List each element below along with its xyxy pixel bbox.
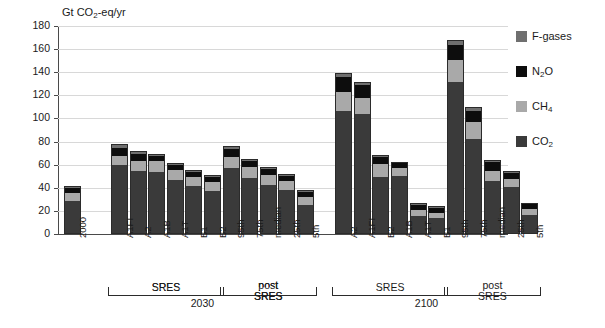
x-axis-label-10: 25th — [291, 220, 302, 239]
bar-19 — [465, 107, 482, 234]
y-axis-title-main: Gt CO — [62, 6, 93, 18]
y-tick-120 — [54, 95, 58, 96]
y-tick-40 — [54, 188, 58, 189]
bar-segment-ch4 — [112, 156, 127, 165]
bar-segment-n2o — [355, 85, 370, 98]
x-axis-label-13: A1FI — [366, 218, 377, 238]
legend-swatch-icon — [516, 101, 527, 112]
bar-13 — [354, 82, 371, 234]
x-axis-label-1: A1FI — [124, 218, 135, 238]
bar-segment-ch4 — [261, 175, 276, 185]
legend-swatch-icon — [516, 31, 527, 42]
bracket-label-post-sres-2100: postSRES — [444, 280, 541, 302]
bar-segment-n2o — [373, 157, 388, 164]
bar-segment-ch4 — [485, 171, 500, 181]
bar-segment-ch4 — [392, 168, 407, 176]
y-tick-60 — [54, 165, 58, 166]
x-axis-label-19: 75th — [478, 220, 489, 239]
x-axis-label-8: 75th — [254, 220, 265, 239]
x-axis-label-4: A1T — [179, 221, 190, 238]
bar-segment-ch4 — [149, 161, 164, 172]
bar-segment-ch4 — [448, 60, 463, 82]
y-axis-label-140: 140 — [2, 65, 50, 77]
bracket-label-sres-2030b: SRES — [108, 281, 224, 293]
bar-segment-co2 — [448, 82, 463, 233]
bar-segment-n2o — [224, 149, 239, 158]
legend-label: F-gases — [532, 30, 572, 42]
x-axis-label-16: A1T — [422, 221, 433, 238]
legend-item-1[interactable]: N2O — [516, 65, 604, 77]
x-axis-label-15: A1B — [403, 220, 414, 238]
bar-segment-n2o — [112, 148, 127, 156]
x-axis-label-9: median — [272, 207, 283, 238]
legend-swatch-icon — [516, 66, 527, 77]
bar-18 — [447, 40, 464, 234]
x-axis-label-6: B2 — [217, 226, 228, 238]
bar-segment-ch4 — [336, 92, 351, 110]
legend-item-2[interactable]: CH4 — [516, 100, 604, 112]
y-axis-title-sub: 2 — [93, 11, 97, 20]
legend-swatch-icon — [516, 136, 527, 147]
bar-segment-ch4 — [131, 161, 146, 171]
y-tick-0 — [54, 234, 58, 235]
bar-segment-n2o — [336, 77, 351, 92]
bar-6 — [204, 175, 221, 234]
gridline-80 — [58, 142, 508, 143]
y-axis-label-60: 60 — [2, 158, 50, 170]
y-axis-label-20: 20 — [2, 204, 50, 216]
gridline-100 — [58, 118, 508, 119]
period-label-2030: 2030 — [179, 297, 225, 309]
x-axis-label-2: A2 — [142, 226, 153, 238]
y-tick-20 — [54, 211, 58, 212]
bar-segment-ch4 — [279, 181, 294, 190]
bar-segment-co2 — [336, 111, 351, 233]
bar-segment-ch4 — [65, 193, 80, 201]
y-axis-label-0: 0 — [2, 227, 50, 239]
legend-item-3[interactable]: CO2 — [516, 135, 604, 147]
bar-segment-ch4 — [242, 167, 257, 177]
y-axis-label-40: 40 — [2, 181, 50, 193]
bar-segment-n2o — [485, 162, 500, 171]
gridline-160 — [58, 49, 508, 50]
y-axis-label-120: 120 — [2, 88, 50, 100]
period-label-2100: 2100 — [404, 297, 450, 309]
x-axis-label-0: 2000 — [77, 217, 88, 238]
legend: F-gasesN2OCH4CO2 — [516, 30, 604, 170]
bar-segment-ch4 — [186, 177, 201, 186]
y-tick-180 — [54, 26, 58, 27]
x-axis-label-3: A1B — [161, 220, 172, 238]
y-tick-80 — [54, 142, 58, 143]
plot-area — [58, 26, 508, 234]
y-tick-140 — [54, 72, 58, 73]
bracket-label-post-sres-2030b: postSRES — [220, 280, 317, 302]
x-axis-label-22: 5th — [534, 225, 545, 238]
x-axis-label-7: 95th — [235, 220, 246, 239]
bracket-label-sres-2100: SRES — [332, 281, 448, 293]
bar-segment-ch4 — [466, 122, 481, 139]
y-axis-label-100: 100 — [2, 111, 50, 123]
x-axis-label-21: 25th — [515, 220, 526, 239]
legend-label: CH4 — [532, 100, 552, 112]
y-axis-title: Gt CO2-eq/yr — [62, 6, 126, 18]
gridline-120 — [58, 95, 508, 96]
bar-segment-ch4 — [205, 182, 220, 191]
x-axis-label-14: B2 — [385, 226, 396, 238]
y-axis-title-rest: -eq/yr — [98, 6, 126, 18]
bar-segment-n2o — [131, 154, 146, 161]
bar-segment-co2 — [355, 114, 370, 233]
bar-segment-ch4 — [504, 179, 519, 187]
bar-12 — [335, 73, 352, 234]
y-axis-label-180: 180 — [2, 19, 50, 31]
gridline-140 — [58, 72, 508, 73]
y-tick-160 — [54, 49, 58, 50]
bar-segment-ch4 — [224, 157, 239, 168]
legend-label: CO2 — [532, 135, 553, 147]
chart-root: Gt CO2-eq/yr 020406080100120140160180 20… — [0, 0, 605, 328]
x-axis-label-20: median — [496, 207, 507, 238]
bar-segment-n2o — [448, 45, 463, 60]
x-axis-label-5: B1 — [198, 226, 209, 238]
legend-item-0[interactable]: F-gases — [516, 30, 604, 42]
y-axis-label-80: 80 — [2, 135, 50, 147]
y-axis-label-160: 160 — [2, 42, 50, 54]
x-axis-label-18: 95th — [459, 220, 470, 239]
